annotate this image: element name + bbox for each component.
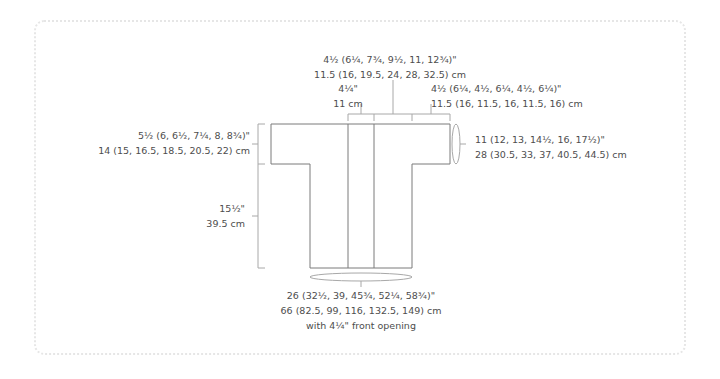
front-opening-top-label: 4¼" 11 cm bbox=[328, 81, 368, 111]
hem-circumference-note: with 4¼" front opening bbox=[261, 318, 461, 333]
front-opening-top-metric: 11 cm bbox=[328, 96, 368, 111]
front-opening-top-imperial: 4¼" bbox=[328, 81, 368, 96]
left-dimension-bracket bbox=[252, 124, 265, 268]
neck-total-imperial: 4½ (6¼, 7¾, 9½, 11, 12¾)" bbox=[300, 52, 480, 67]
sleeve-depth-metric: 14 (15, 16.5, 18.5, 20.5, 22) cm bbox=[98, 143, 250, 158]
sleeve-depth-label: 5½ (6, 6½, 7¼, 8, 8¾)" 14 (15, 16.5, 18.… bbox=[98, 128, 250, 158]
hem-circumference-imperial: 26 (32½, 39, 45¾, 52¼, 58¾)" bbox=[261, 288, 461, 303]
garment-outline bbox=[271, 124, 450, 268]
neck-total-metric: 11.5 (16, 19.5, 24, 28, 32.5) cm bbox=[300, 67, 480, 82]
hem-circumference-metric: 66 (82.5, 99, 116, 132.5, 149) cm bbox=[261, 303, 461, 318]
sleeve-depth-imperial: 5½ (6, 6½, 7¼, 8, 8¾)" bbox=[98, 128, 250, 143]
sleeve-circumference-label: 11 (12, 13, 14½, 16, 17½)" 28 (30.5, 33,… bbox=[475, 132, 627, 162]
sleeve-circumference-marker bbox=[452, 124, 466, 164]
body-length-metric: 39.5 cm bbox=[206, 216, 245, 231]
hem-circumference-label: 26 (32½, 39, 45¾, 52¼, 58¾)" 66 (82.5, 9… bbox=[261, 288, 461, 333]
sleeve-circumference-metric: 28 (30.5, 33, 37, 40.5, 44.5) cm bbox=[475, 147, 627, 162]
neck-total-label: 4½ (6¼, 7¾, 9½, 11, 12¾)" 11.5 (16, 19.5… bbox=[300, 52, 480, 82]
sleeve-circumference-imperial: 11 (12, 13, 14½, 16, 17½)" bbox=[475, 132, 627, 147]
shoulder-metric: 11.5 (16, 11.5, 16, 11.5, 16) cm bbox=[431, 96, 583, 111]
hem-circumference-marker bbox=[310, 273, 412, 287]
shoulder-imperial: 4½ (6¼, 4½, 6¼, 4½, 6¼)" bbox=[431, 81, 583, 96]
body-length-label: 15½" 39.5 cm bbox=[206, 201, 245, 231]
body-length-imperial: 15½" bbox=[206, 201, 245, 216]
shoulder-label: 4½ (6¼, 4½, 6¼, 4½, 6¼)" 11.5 (16, 11.5,… bbox=[431, 81, 583, 111]
